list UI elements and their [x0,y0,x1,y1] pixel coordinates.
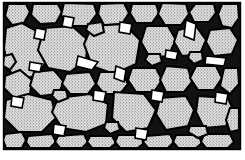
grain [226,108,239,132]
grain [55,134,88,148]
grain [158,3,189,25]
grain [87,136,116,148]
grain [3,132,26,148]
pore [165,50,178,60]
pore [135,128,148,140]
pore [34,28,46,40]
pore [151,90,164,102]
pore [62,16,74,28]
grain [189,4,216,22]
granular-microstructure-illustration [0,0,245,160]
pore [119,22,132,34]
pore [29,62,42,72]
pore [215,92,228,104]
grain [143,134,174,148]
grain [201,134,234,148]
grain [190,66,222,90]
pore [53,124,66,136]
grain [206,28,238,56]
pore [11,96,24,108]
grain [128,68,162,92]
pore [93,90,106,102]
grain [31,4,62,24]
grain [130,4,159,23]
figure-root: Granular microstructure [0,0,245,160]
pore [205,56,226,66]
grain [26,134,56,148]
grain [160,66,192,92]
pore [184,20,196,40]
